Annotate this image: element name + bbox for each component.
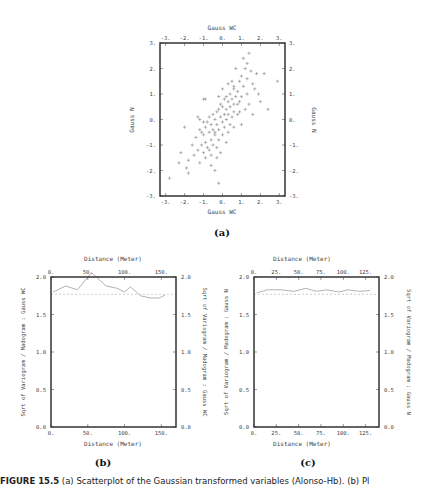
x-tick-label: 50. — [294, 269, 304, 275]
y-tick-label: 1.5 — [239, 312, 249, 318]
x-axis-top-label: Distance (Meter) — [273, 255, 331, 262]
data-point — [202, 120, 205, 123]
data-point — [210, 123, 213, 126]
data-point — [194, 136, 197, 139]
data-point — [210, 164, 213, 167]
x-tick-label: 75. — [316, 430, 326, 436]
x-tick-label: -2. — [180, 35, 190, 41]
data-point — [253, 87, 256, 90]
data-point — [263, 72, 266, 75]
scatter-plot-panel: Gauss WC -3.-2.-1.0.1.2.3. -3.-2.-1.0.1.… — [128, 24, 318, 238]
data-point — [228, 105, 231, 108]
x-tick-label: 0. — [251, 430, 258, 436]
data-point — [200, 143, 203, 146]
data-point — [230, 80, 233, 83]
data-point — [202, 151, 205, 154]
y-tick-label: 0.0 — [181, 424, 191, 430]
data-point — [191, 143, 194, 146]
data-point — [217, 128, 220, 131]
x-tick-label: 100. — [118, 269, 131, 275]
data-point — [219, 103, 222, 106]
data-point — [221, 87, 224, 90]
y-tick-label: 2.0 — [384, 274, 394, 280]
data-point — [213, 169, 216, 172]
x-tick-label: 1. — [238, 199, 245, 205]
data-point — [225, 141, 228, 144]
panel-label-a: (a) — [214, 227, 230, 238]
y-tick-label: 0.0 — [36, 424, 46, 430]
x-axis-label: Gauss WC — [208, 208, 237, 215]
y-tick-label: 2. — [289, 66, 296, 72]
data-point — [215, 110, 218, 113]
y-tick-label: -3. — [146, 193, 156, 199]
data-point — [244, 108, 247, 111]
data-point — [240, 75, 243, 78]
y-tick-label: 0.5 — [239, 387, 249, 393]
data-point — [251, 82, 254, 85]
y-tick-label: 0.0 — [239, 424, 249, 430]
x-tick-label: 0. — [48, 269, 55, 275]
data-point — [223, 126, 226, 129]
data-point — [249, 69, 252, 72]
data-point — [225, 95, 228, 98]
x-tick-label: -3. — [161, 199, 171, 205]
panel-label-c: (c) — [300, 457, 316, 468]
y-tick-label: 1.0 — [181, 349, 191, 355]
data-point — [242, 57, 245, 60]
x-tick-label: -1. — [199, 199, 209, 205]
x-axis-top-label: Distance (Meter) — [84, 255, 142, 262]
figure-canvas: Gauss WC -3.-2.-1.0.1.2.3. -3.-2.-1.0.1.… — [0, 0, 430, 486]
y-tick-label: 1. — [149, 91, 156, 97]
data-point — [238, 80, 241, 83]
x-tick-label: -1. — [199, 35, 209, 41]
x-tick-label: 0. — [48, 430, 55, 436]
y-tick-label: 3. — [149, 40, 156, 46]
data-point — [246, 77, 249, 80]
data-point — [187, 159, 190, 162]
x-tick-label: 3. — [276, 199, 283, 205]
variogram-panel-b: Distance (Meter) 0.0.50.50.100.100.150.1… — [20, 255, 208, 468]
y-tick-label: 2.0 — [36, 274, 46, 280]
x-tick-label: 0. — [219, 35, 226, 41]
data-point — [230, 98, 233, 101]
x-tick-label: 125. — [359, 269, 372, 275]
data-point — [202, 98, 205, 101]
x-tick-label: 25. — [271, 269, 281, 275]
data-point — [217, 95, 220, 98]
x-tick-label: 25. — [271, 430, 281, 436]
data-point — [232, 126, 235, 129]
x-tick-label: 100. — [118, 430, 131, 436]
data-point — [206, 146, 209, 149]
data-point — [232, 110, 235, 113]
data-point — [200, 131, 203, 134]
figure-number: FIGURE 15.5 — [0, 476, 59, 486]
data-point — [187, 171, 190, 174]
scatter-points — [168, 52, 279, 185]
data-point — [208, 115, 211, 118]
data-point — [202, 133, 205, 136]
data-point — [204, 126, 207, 129]
data-point — [219, 115, 222, 118]
y-tick-label: 1.0 — [239, 349, 249, 355]
data-point — [215, 123, 218, 126]
y-tick-label: 0.0 — [384, 424, 394, 430]
data-point — [210, 154, 213, 157]
data-point — [234, 95, 237, 98]
x-ticks-bottom: -3.-2.-1.0.1.2.3. — [161, 193, 283, 205]
y-tick-label: 1.5 — [181, 312, 191, 318]
data-point — [208, 131, 211, 134]
data-point — [232, 85, 235, 88]
data-point — [183, 126, 186, 129]
data-point — [204, 156, 207, 159]
data-point — [266, 108, 269, 111]
data-point — [215, 146, 218, 149]
variogram-lines — [254, 288, 379, 294]
x-tick-label: 150. — [155, 269, 168, 275]
data-point — [179, 151, 182, 154]
data-point — [206, 120, 209, 123]
y-tick-label: 1. — [289, 91, 296, 97]
data-point — [240, 95, 243, 98]
x-tick-label: 3. — [276, 35, 283, 41]
data-point — [228, 92, 231, 95]
data-point — [240, 123, 243, 126]
